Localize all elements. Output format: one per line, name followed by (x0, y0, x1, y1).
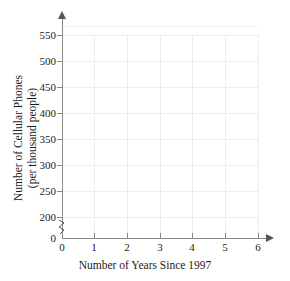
x-axis-tick-label: 2 (117, 241, 137, 253)
arrow-up-icon (58, 11, 66, 19)
y-axis-title: Number of Cellular Phones (per thousand … (11, 35, 39, 241)
gridline-vertical (127, 35, 128, 238)
x-axis-tick-label: 1 (84, 241, 104, 253)
x-axis-tick-label: 4 (182, 241, 202, 253)
gridline-vertical (258, 35, 259, 238)
x-axis-tick (160, 233, 161, 239)
x-axis-tick-label: 0 (52, 241, 72, 253)
y-axis-tick (57, 35, 63, 36)
gridline-vertical (160, 35, 161, 238)
x-axis-tick (258, 233, 259, 239)
y-axis-tick (57, 217, 63, 218)
y-axis-tick (57, 139, 63, 140)
gridline-vertical (94, 35, 95, 238)
y-axis-tick (57, 87, 63, 88)
x-axis-tick (127, 233, 128, 239)
y-axis-tick (57, 165, 63, 166)
gridline-horizontal (62, 26, 258, 27)
y-axis-title-line1: Number of Cellular Phones (12, 75, 24, 201)
plot-area (62, 26, 258, 238)
gridline-vertical (225, 35, 226, 238)
x-axis-line (62, 238, 266, 239)
y-axis-tick (57, 113, 63, 114)
y-axis-tick (57, 61, 63, 62)
y-axis-tick (57, 191, 63, 192)
x-axis-tick (62, 233, 63, 239)
chart-screenshot: 550 500 450 400 350 300 250 200 0 0 1 2 … (0, 0, 290, 281)
x-axis-tick (225, 233, 226, 239)
gridline-vertical (192, 35, 193, 238)
x-axis-tick (192, 233, 193, 239)
x-axis-tick (94, 233, 95, 239)
x-axis-tick-label: 5 (215, 241, 235, 253)
x-axis-tick-label: 3 (150, 241, 170, 253)
y-axis-title-line2: (per thousand people) (25, 35, 39, 241)
y-axis-line (62, 18, 63, 238)
x-axis-tick-label: 6 (248, 241, 268, 253)
x-axis-title: Number of Years Since 1997 (0, 259, 290, 271)
